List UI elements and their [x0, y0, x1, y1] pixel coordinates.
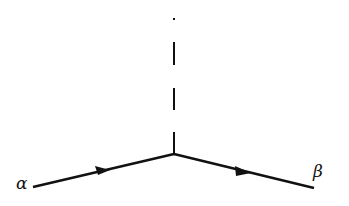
incoming-arrow-icon: [95, 166, 110, 175]
label-beta: β: [313, 163, 323, 180]
diagram-svg: [0, 0, 349, 206]
label-alpha: α: [16, 175, 27, 192]
dashed-line: [173, 18, 175, 154]
vertex-point: [173, 153, 175, 155]
dashed-line-dot: [173, 18, 175, 20]
feynman-diagram: α β: [0, 0, 349, 206]
